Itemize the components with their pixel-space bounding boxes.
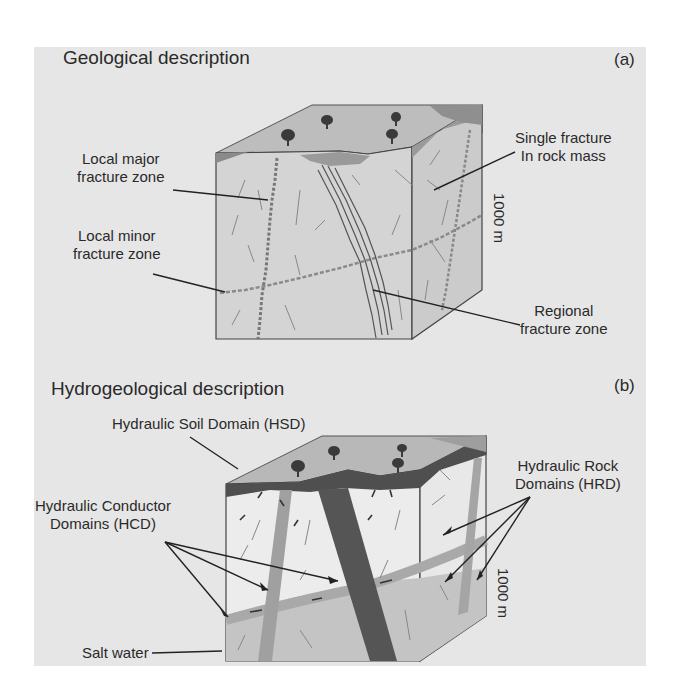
depth-label-b: 1000 m bbox=[495, 568, 512, 618]
label-hydraulic-conductor-domains: Hydraulic Conductor Domains (HCD) bbox=[35, 497, 171, 533]
label-hydraulic-soil-domain: Hydraulic Soil Domain (HSD) bbox=[112, 415, 305, 433]
panel-b-title: Hydrogeological description bbox=[51, 378, 284, 400]
label-salt-water: Salt water bbox=[82, 644, 149, 662]
label-local-major-fracture-zone: Local major fracture zone bbox=[77, 150, 165, 186]
depth-label-a: 1000 m bbox=[491, 193, 508, 243]
label-single-fracture: Single fracture In rock mass bbox=[515, 129, 612, 165]
label-regional-fracture-zone: Regional fracture zone bbox=[520, 302, 608, 338]
panel-b-tag: (b) bbox=[614, 376, 635, 396]
label-local-minor-fracture-zone: Local minor fracture zone bbox=[73, 227, 161, 263]
geological-block-diagram bbox=[0, 0, 680, 695]
label-hydraulic-rock-domains: Hydraulic Rock Domains (HRD) bbox=[515, 457, 621, 493]
